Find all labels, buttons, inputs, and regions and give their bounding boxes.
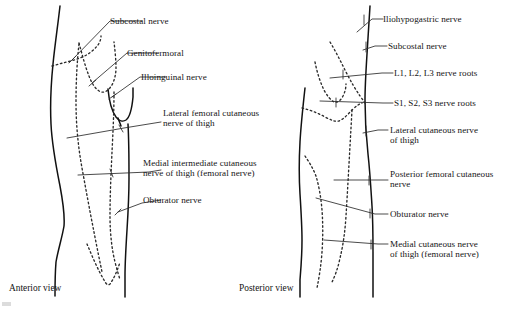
label-posterior-lateral-cutaneous-line2: of thigh bbox=[390, 135, 419, 145]
leader-posterior-obturator bbox=[316, 198, 388, 214]
anterior-dermatome-upper-lateral bbox=[52, 36, 101, 66]
caption-posterior-view: Posterior view bbox=[239, 283, 294, 293]
label-anterior-subcostal: Subcostal nerve bbox=[110, 16, 169, 26]
label-posterior-lateral-cutaneous-line1: Lateral cutaneous nerve bbox=[390, 125, 478, 135]
label-posterior-femoral-cutaneous-line2: nerve bbox=[390, 179, 410, 189]
label-anterior-medial-intermediate-line1: Medial intermediate cutaneous bbox=[143, 158, 257, 168]
label-anterior-genitofemoral: Genitofermoral bbox=[127, 48, 184, 58]
caption-anterior-view: Anterior view bbox=[9, 283, 62, 293]
label-posterior-sacral-roots: S1, S2, S3 nerve roots bbox=[394, 98, 476, 108]
nerve-supply-figure: Subcostal nerve Genitofermoral Illoingui… bbox=[0, 0, 520, 310]
leader-posterior-medial-cutaneous bbox=[324, 240, 388, 244]
posterior-dermatome-lumbar-band bbox=[315, 62, 346, 102]
posterior-leader-lines bbox=[316, 15, 393, 249]
label-anterior-lateral-femoral-line1: Lateral femoral cutaneous bbox=[163, 108, 260, 118]
label-posterior-lumbar-roots: L1, L2, L3 nerve roots bbox=[394, 68, 478, 78]
label-posterior-iliohypogastric: Iliohypogastric nerve bbox=[383, 14, 462, 24]
label-anterior-ilioinguinal: Illoinguinal nerve bbox=[141, 72, 207, 82]
posterior-view-group: Iliohypogastric nerve Subcostal nerve L1… bbox=[239, 6, 494, 297]
label-anterior-obturator: Obturator nerve bbox=[143, 195, 202, 205]
posterior-lateral-outline bbox=[299, 88, 305, 297]
label-posterior-femoral-cutaneous-line1: Posterior femoral cutaneous bbox=[390, 169, 494, 179]
label-posterior-subcostal: Subcostal nerve bbox=[388, 41, 447, 51]
label-posterior-medial-cutaneous-line1: Medial cutaneous nerve bbox=[390, 239, 478, 249]
tick-anterior-ilioinguinal bbox=[109, 94, 116, 99]
anterior-medial-outline bbox=[125, 124, 129, 297]
label-posterior-obturator: Obturator nerve bbox=[390, 209, 449, 219]
leader-posterior-lumbar-roots bbox=[330, 73, 393, 78]
posterior-dermatome-upper-oblique bbox=[330, 42, 366, 105]
tick-anterior-obturator bbox=[115, 209, 121, 215]
anterior-view-group: Subcostal nerve Genitofermoral Illoingui… bbox=[9, 6, 260, 297]
label-posterior-medial-cutaneous-line2: of thigh (femoral nerve) bbox=[390, 249, 479, 259]
label-anterior-lateral-femoral-line2: nerve of thigh bbox=[163, 118, 215, 128]
anterior-inguinal-curve bbox=[108, 88, 133, 121]
scan-artifact bbox=[2, 302, 11, 306]
anterior-lateral-outline bbox=[51, 6, 65, 296]
leader-posterior-sacral-roots bbox=[320, 101, 393, 103]
posterior-dermatome-medial-obturator bbox=[305, 156, 323, 288]
anterior-inguinal-stem bbox=[118, 118, 121, 126]
posterior-dermatome-posterior-femoral bbox=[332, 110, 352, 282]
label-anterior-medial-intermediate-line2: nerve of thigh (femoral nerve) bbox=[143, 168, 255, 178]
tick-anterior-genitofemoral bbox=[89, 80, 96, 86]
leader-posterior-iliohypogastric bbox=[357, 19, 383, 32]
posterior-dermatome-sacral-fold bbox=[302, 103, 362, 121]
leader-anterior-lateral-femoral bbox=[67, 122, 161, 138]
anatomical-diagram: Subcostal nerve Genitofermoral Illoingui… bbox=[0, 0, 520, 310]
